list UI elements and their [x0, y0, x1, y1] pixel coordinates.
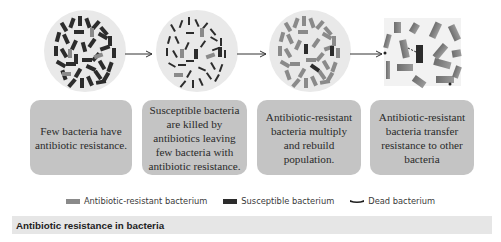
stage-3-description: Antibiotic-resistant bacteria multiply a… — [257, 100, 361, 175]
legend: Antibiotic-resistant bacterium Susceptib… — [0, 193, 501, 209]
legend-label: Antibiotic-resistant bacterium — [84, 196, 207, 206]
stage-1-population-icon — [44, 10, 126, 92]
legend-label: Dead bacterium — [368, 196, 435, 206]
legend-item-susceptible: Susceptible bacterium — [223, 196, 334, 206]
susceptible-bacterium-swatch-icon — [223, 199, 237, 204]
stage-2-description: Susceptible bacteria are killed by antib… — [142, 100, 247, 175]
stage-1-description: Few bacteria have antibiotic resistance. — [30, 100, 132, 175]
legend-label: Susceptible bacterium — [241, 196, 334, 206]
resistant-bacterium-swatch-icon — [66, 199, 80, 204]
caption-text: Antibiotic resistance in bacteria — [16, 220, 164, 231]
diagram-illustrations — [0, 0, 501, 100]
stage-3-population-icon — [269, 10, 351, 92]
legend-item-resistant: Antibiotic-resistant bacterium — [66, 196, 207, 206]
dead-bacterium-icon — [350, 198, 364, 204]
stage-2-population-icon — [156, 10, 238, 92]
stage-1-text: Few bacteria have antibiotic resistance. — [35, 124, 127, 152]
figure-caption: Antibiotic resistance in bacteria — [12, 216, 492, 234]
stage-4-transfer-icon — [383, 18, 462, 88]
stage-4-text: Antibiotic-resistant bacteria transfer r… — [375, 110, 469, 166]
stage-3-text: Antibiotic-resistant bacteria multiply a… — [262, 110, 356, 166]
stage-2-text: Susceptible bacteria are killed by antib… — [147, 103, 242, 173]
legend-item-dead: Dead bacterium — [350, 196, 435, 206]
stage-4-description: Antibiotic-resistant bacteria transfer r… — [370, 100, 474, 175]
diagram: Few bacteria have antibiotic resistance.… — [0, 0, 501, 190]
